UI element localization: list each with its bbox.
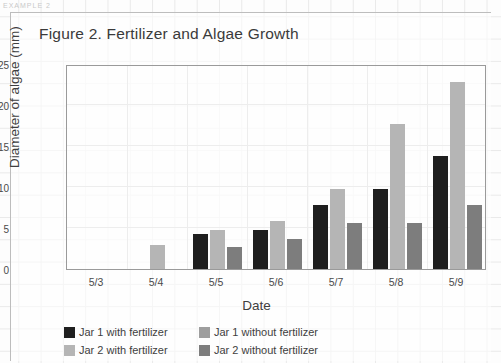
legend-swatch-icon xyxy=(64,327,75,338)
bar xyxy=(227,247,242,269)
gridline-vertical xyxy=(127,66,128,269)
bar xyxy=(313,205,328,269)
legend-label: Jar 1 without fertilizer xyxy=(214,326,318,338)
gridline-vertical xyxy=(427,66,428,269)
chart-card: Figure 2. Fertilizer and Algae Growth Di… xyxy=(10,12,491,361)
bar xyxy=(150,245,165,269)
x-tick-label: 5/6 xyxy=(269,276,284,288)
gridline-vertical xyxy=(247,66,248,269)
legend-item[interactable]: Jar 1 with fertilizer xyxy=(64,326,199,338)
x-tick-label: 5/7 xyxy=(329,276,344,288)
gridline-horizontal xyxy=(67,186,485,187)
bar xyxy=(407,223,422,269)
legend-swatch-icon xyxy=(64,345,75,356)
legend-item[interactable]: Jar 2 with fertilizer xyxy=(64,344,199,356)
bar xyxy=(390,124,405,269)
bar xyxy=(193,234,208,269)
legend-label: Jar 2 with fertilizer xyxy=(79,344,168,356)
legend-label: Jar 1 with fertilizer xyxy=(79,326,168,338)
bar xyxy=(467,205,482,269)
y-tick-label: 10 xyxy=(0,183,9,194)
legend-swatch-icon xyxy=(199,345,210,356)
x-tick-label: 5/8 xyxy=(389,276,404,288)
bar xyxy=(253,230,268,269)
bar xyxy=(210,230,225,269)
gridline-horizontal xyxy=(67,145,485,146)
bar xyxy=(433,156,448,269)
bar xyxy=(287,239,302,269)
x-tick-label: 5/4 xyxy=(149,276,164,288)
bar xyxy=(330,189,345,269)
x-axis-title: Date xyxy=(11,298,501,313)
gridline-horizontal xyxy=(67,104,485,105)
chart-title: Figure 2. Fertilizer and Algae Growth xyxy=(39,25,299,43)
bar xyxy=(347,223,362,269)
gridline-vertical xyxy=(187,66,188,269)
x-tick-label: 5/9 xyxy=(449,276,464,288)
y-tick-label: 0 xyxy=(0,265,9,276)
bar xyxy=(270,221,285,269)
legend-swatch-icon xyxy=(199,327,210,338)
y-axis-title: Diameter of algae (mm) xyxy=(7,26,22,168)
plot-area xyxy=(66,65,486,270)
bar xyxy=(450,82,465,269)
x-tick-label: 5/5 xyxy=(209,276,224,288)
gridline-vertical xyxy=(307,66,308,269)
bars-layer xyxy=(67,66,485,269)
legend-item[interactable]: Jar 2 without fertilizer xyxy=(199,344,349,356)
x-tick-label: 5/3 xyxy=(89,276,104,288)
legend-label: Jar 2 without fertilizer xyxy=(214,344,318,356)
chart-legend: Jar 1 with fertilizerJar 1 without ferti… xyxy=(64,323,349,359)
y-tick-label: 5 xyxy=(0,224,9,235)
legend-item[interactable]: Jar 1 without fertilizer xyxy=(199,326,349,338)
gridline-vertical xyxy=(367,66,368,269)
bar xyxy=(373,189,388,269)
page-header-text: EXAMPLE 2 xyxy=(0,0,501,11)
